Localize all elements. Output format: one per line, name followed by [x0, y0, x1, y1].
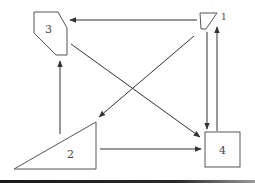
- node-2: 2: [14, 122, 96, 169]
- node-3-label: 3: [45, 23, 52, 36]
- edge-3-to-4: [71, 44, 200, 137]
- node-2-label: 2: [67, 148, 74, 161]
- diagram-canvas: 3 1 2 4: [0, 0, 255, 184]
- node-1: 1: [200, 12, 227, 29]
- node-3: 3: [34, 12, 67, 55]
- edge-1-to-2: [99, 36, 194, 117]
- node-1-shape: [200, 13, 217, 29]
- node-1-label: 1: [221, 12, 227, 22]
- node-4: 4: [205, 132, 240, 167]
- node-2-shape: [14, 122, 96, 169]
- bottom-rule-divider: [0, 180, 255, 183]
- node-4-label: 4: [219, 144, 226, 157]
